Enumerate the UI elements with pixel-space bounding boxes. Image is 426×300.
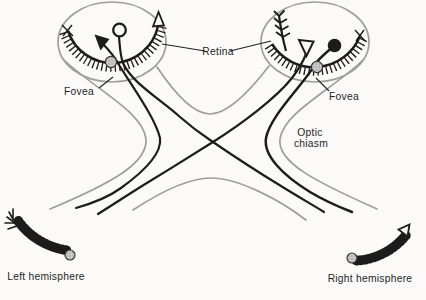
right-hemisphere-spot: [347, 253, 357, 263]
optic-chiasm-diagram: Retina Fovea Fovea Optic chiasm Left hem…: [0, 0, 426, 300]
diagram-canvas: Retina Fovea Fovea Optic chiasm Left hem…: [0, 0, 426, 300]
optic-chiasm-label-line2: chiasm: [294, 138, 328, 149]
retina-label: Retina: [202, 46, 233, 57]
optic-chiasm-label-line1: Optic: [297, 127, 322, 138]
left-fovea-spot: [105, 56, 116, 67]
filled-circle-icon: [328, 39, 342, 53]
fovea-label-right: Fovea: [329, 91, 359, 102]
left-hemisphere-spot: [65, 250, 75, 260]
right-fovea-spot: [311, 61, 322, 72]
fovea-label-left: Fovea: [64, 86, 94, 97]
right-hemisphere-label: Right hemisphere: [328, 273, 413, 284]
left-hemisphere-label: Left hemisphere: [7, 271, 85, 282]
open-circle-icon: [113, 24, 126, 37]
